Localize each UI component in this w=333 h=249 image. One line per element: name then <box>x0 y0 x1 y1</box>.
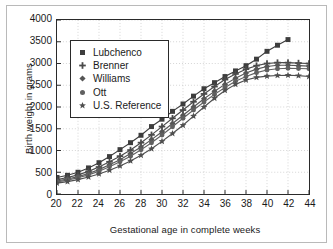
x-axis-tick-label: 22 <box>66 199 88 209</box>
x-axis-tick-labels: 20222426283032343638404244 <box>56 199 310 213</box>
y-axis-tick-label: 2500 <box>18 80 52 90</box>
y-axis-tick-label: 3000 <box>18 58 52 68</box>
x-axis-tick-label: 24 <box>87 199 109 209</box>
legend-item-label: Brenner <box>93 60 129 71</box>
chart-figure: Birth weight in grams 050010001500200025… <box>0 0 333 249</box>
legend-item-label: Ott <box>93 87 106 98</box>
x-axis-tick-label: 44 <box>299 199 321 209</box>
y-axis-tick-label: 500 <box>18 168 52 178</box>
chart-legend: LubchencoBrennerWilliamsOttU.S. Referenc… <box>70 40 169 118</box>
legend-item-brenner: Brenner <box>77 59 164 72</box>
legend-item-williams: Williams <box>77 72 164 85</box>
x-axis-tick-label: 42 <box>278 199 300 209</box>
diamond-marker-icon <box>77 73 88 84</box>
plus-marker-icon <box>77 60 88 71</box>
y-axis-tick-label: 2000 <box>18 102 52 112</box>
y-axis-tick-labels: 05001000150020002500300035004000 <box>16 19 52 195</box>
x-axis-tick-label: 26 <box>109 199 131 209</box>
legend-item-lubchenco: Lubchenco <box>77 46 164 59</box>
square-marker-icon <box>77 47 88 58</box>
legend-item-label: Williams <box>93 73 130 84</box>
x-axis-tick-label: 34 <box>193 199 215 209</box>
x-axis-tick-label: 38 <box>236 199 258 209</box>
circle-marker-icon <box>77 87 88 98</box>
x-axis-tick-label: 40 <box>257 199 279 209</box>
x-axis-tick-label: 20 <box>45 199 67 209</box>
x-axis-tick-label: 32 <box>172 199 194 209</box>
legend-item-label: U.S. Reference <box>93 100 161 111</box>
x-axis-tick-label: 28 <box>130 199 152 209</box>
x-axis-tick-label: 36 <box>214 199 236 209</box>
y-axis-tick-label: 3500 <box>18 36 52 46</box>
legend-item-u-s-reference: U.S. Reference <box>77 99 164 112</box>
y-axis-tick-label: 1500 <box>18 124 52 134</box>
legend-item-label: Lubchenco <box>93 47 142 58</box>
y-axis-tick-label: 4000 <box>18 14 52 24</box>
legend-item-ott: Ott <box>77 86 164 99</box>
y-axis-tick-label: 1000 <box>18 146 52 156</box>
x-axis-title: Gestational age in complete weeks <box>54 224 316 235</box>
star-marker-icon <box>77 100 88 111</box>
x-axis-tick-label: 30 <box>151 199 173 209</box>
